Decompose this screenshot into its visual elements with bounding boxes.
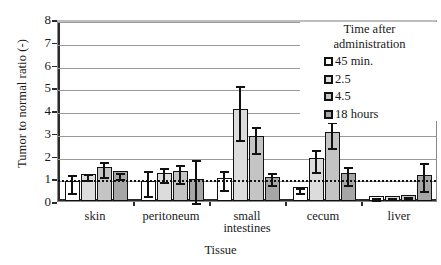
error-bar-cap-bottom xyxy=(420,191,429,193)
error-bar-cap-top xyxy=(252,127,261,129)
error-bar-cap-bottom xyxy=(160,182,169,184)
error-bar-cap-top xyxy=(344,167,353,169)
error-bar-cap-top xyxy=(116,173,125,175)
x-tick-mark xyxy=(133,202,135,206)
error-bar-cap-bottom xyxy=(268,185,277,187)
error-bar-cap-bottom xyxy=(296,193,305,195)
error-bar xyxy=(331,123,333,149)
error-bar-cap-bottom xyxy=(372,200,381,202)
error-bar-cap-bottom xyxy=(100,177,109,179)
error-bar-cap-bottom xyxy=(404,199,413,201)
error-bar-cap-bottom xyxy=(344,185,353,187)
error-bar xyxy=(255,127,257,154)
error-bar xyxy=(423,163,425,191)
error-bar xyxy=(147,171,149,196)
error-bar-cap-top xyxy=(176,165,185,167)
chart-legend: Time after administration 45 min.2.54.51… xyxy=(300,22,439,121)
legend-swatch xyxy=(324,92,333,101)
x-tick-mark xyxy=(361,202,363,206)
reference-line xyxy=(58,180,436,182)
error-bar-cap-top xyxy=(420,163,429,165)
bar-group xyxy=(134,22,210,201)
error-bar-cap-top xyxy=(160,168,169,170)
y-tick-mark xyxy=(52,43,57,45)
error-bar-cap-bottom xyxy=(220,190,229,192)
legend-item-label: 45 min. xyxy=(335,55,373,68)
y-tick-label: 0 xyxy=(27,195,51,208)
error-bar-cap-top xyxy=(68,175,77,177)
error-bar-cap-top xyxy=(144,171,153,173)
y-tick-label: 4 xyxy=(27,104,51,117)
error-bar-cap-top xyxy=(296,188,305,190)
error-bar-cap-top xyxy=(236,86,245,88)
error-bar-cap-bottom xyxy=(68,193,77,195)
bar-group xyxy=(58,22,134,201)
error-bar-cap-bottom xyxy=(388,199,397,201)
legend-item[interactable]: 2.5 xyxy=(324,72,439,86)
chart-figure: Tumor to normal ratio (-) 012345678 skin… xyxy=(0,0,441,265)
error-bar-cap-top xyxy=(328,123,337,125)
legend-items: 45 min.2.54.518 hours xyxy=(300,55,439,122)
legend-item[interactable]: 4.5 xyxy=(324,90,439,104)
legend-item[interactable]: 45 min. xyxy=(324,55,439,69)
y-tick-label: 7 xyxy=(27,36,51,49)
legend-title-line2: administration xyxy=(300,37,439,52)
y-tick-label: 5 xyxy=(27,81,51,94)
legend-swatch xyxy=(324,110,333,119)
x-axis-title: Tissue xyxy=(0,243,441,258)
legend-swatch xyxy=(324,75,333,84)
error-bar-cap-bottom xyxy=(176,183,185,185)
error-bar-cap-bottom xyxy=(236,140,245,142)
error-bar xyxy=(239,86,241,141)
x-tick-label: liver xyxy=(349,210,441,222)
y-tick-mark xyxy=(52,88,57,90)
legend-item-label: 2.5 xyxy=(335,73,351,86)
legend-item-label: 18 hours xyxy=(335,108,378,121)
error-bar-cap-top xyxy=(100,162,109,164)
error-bar-cap-bottom xyxy=(144,196,153,198)
legend-swatch xyxy=(324,57,333,66)
error-bar-cap-top xyxy=(192,160,201,162)
y-tick-label: 2 xyxy=(27,150,51,163)
error-bar-cap-top xyxy=(312,150,321,152)
y-tick-mark xyxy=(52,202,57,204)
error-bar-cap-bottom xyxy=(328,148,337,150)
y-tick-label: 1 xyxy=(27,172,51,185)
y-tick-label: 8 xyxy=(27,13,51,26)
legend-title-line1: Time after xyxy=(300,22,439,37)
error-bar-cap-bottom xyxy=(312,172,321,174)
y-tick-mark xyxy=(52,134,57,136)
y-tick-mark xyxy=(52,20,57,22)
error-bar xyxy=(315,150,317,172)
error-bar xyxy=(71,175,73,193)
y-tick-label: 6 xyxy=(27,59,51,72)
y-tick-mark xyxy=(52,157,57,159)
legend-title: Time after administration xyxy=(300,22,439,51)
legend-item-label: 4.5 xyxy=(335,90,351,103)
legend-item[interactable]: 18 hours xyxy=(324,107,439,121)
y-tick-mark xyxy=(52,179,57,181)
x-tick-mark xyxy=(285,202,287,206)
y-tick-mark xyxy=(52,66,57,68)
x-tick-mark xyxy=(209,202,211,206)
error-bar-cap-top xyxy=(84,174,93,176)
error-bar-cap-top xyxy=(268,173,277,175)
error-bar-cap-top xyxy=(220,171,229,173)
bar-group xyxy=(210,22,286,201)
y-tick-label: 3 xyxy=(27,127,51,140)
error-bar-cap-bottom xyxy=(252,153,261,155)
error-bar xyxy=(103,162,105,177)
error-bar-cap-bottom xyxy=(192,203,201,205)
error-bar xyxy=(347,167,349,185)
y-tick-mark xyxy=(52,111,57,113)
